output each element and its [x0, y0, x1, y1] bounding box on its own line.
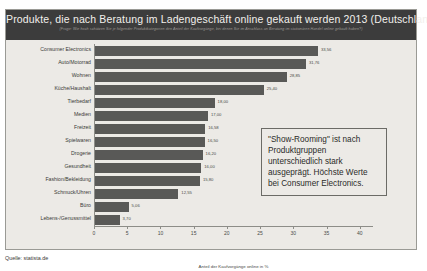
chart-title: Produkte, die nach Beratung im Ladengesc… — [6, 13, 416, 25]
bar — [95, 202, 129, 212]
bar-value-label: 16,20 — [206, 151, 216, 156]
x-tick-label: 10 — [158, 230, 164, 236]
chart-screenshot: Produkte, die nach Beratung im Ladengesc… — [0, 0, 427, 271]
category-label: Drogerie — [71, 150, 91, 156]
x-tick-label: 15 — [191, 230, 197, 236]
bar — [95, 124, 205, 134]
category-label: Küche/Haushalt — [54, 85, 91, 91]
bar-row: Auto/Motorrad31,76 — [94, 57, 404, 70]
bar-value-label: 31,76 — [309, 60, 319, 65]
x-axis-title: Anteil der Kaufvorgänge online in % — [94, 264, 373, 269]
bar-row: Tierbedarf18,00 — [94, 96, 404, 109]
bar-value-label: 15,80 — [203, 177, 213, 182]
annotation-callout: "Show-Rooming" ist nach Produktgruppen u… — [261, 128, 387, 196]
plot-area: Consumer Electronics33,56Auto/Motorrad31… — [6, 40, 416, 251]
x-tick — [127, 226, 128, 229]
x-tick — [260, 226, 261, 229]
x-tick-label: 5 — [126, 230, 129, 236]
bar — [95, 150, 203, 160]
source-label: Quelle: statista.de — [5, 255, 48, 261]
x-tick — [94, 226, 95, 229]
bar — [95, 72, 287, 82]
x-tick — [160, 226, 161, 229]
category-label: Medien — [74, 111, 91, 117]
bar-value-label: 16,58 — [208, 125, 218, 130]
bar-row: Wohnen28,85 — [94, 70, 404, 83]
category-label: Spielwaren — [65, 137, 91, 143]
bar-value-label: 25,40 — [267, 86, 277, 91]
bar-value-label: 5,06 — [132, 203, 140, 208]
bar-value-label: 17,00 — [211, 112, 221, 117]
bar — [95, 59, 306, 69]
category-label: Lebens-/Genussmittel — [41, 215, 91, 221]
category-label: Fashion/Bekleidung — [45, 176, 91, 182]
x-tick — [227, 226, 228, 229]
bar — [95, 46, 318, 56]
bar-value-label: 28,85 — [290, 73, 300, 78]
category-label: Schmuck/Uhren — [54, 189, 91, 195]
bar — [95, 98, 215, 108]
category-label: Auto/Motorrad — [58, 59, 91, 65]
x-axis-line — [94, 226, 373, 227]
bar-value-label: 16,00 — [204, 164, 214, 169]
chart-subtitle: (Frage: Wie hoch schätzen Sie je folgend… — [6, 27, 416, 31]
category-label: Wohnen — [72, 72, 91, 78]
bar-value-label: 12,55 — [181, 190, 191, 195]
x-tick — [360, 226, 361, 229]
bar-value-label: 18,00 — [218, 99, 228, 104]
bar — [95, 85, 264, 95]
category-label: Büro — [80, 202, 91, 208]
bar-value-label: 16,50 — [208, 138, 218, 143]
x-tick — [293, 226, 294, 229]
x-tick-label: 30 — [291, 230, 297, 236]
x-tick-label: 20 — [224, 230, 230, 236]
bar-value-label: 3,70 — [123, 216, 131, 221]
bar-value-label: 33,56 — [321, 47, 331, 52]
category-label: Consumer Electronics — [40, 46, 91, 52]
x-tick — [194, 226, 195, 229]
x-tick-label: 25 — [257, 230, 263, 236]
bar — [95, 137, 205, 147]
bar-row: Medien17,00 — [94, 109, 404, 122]
bar-row: Lebens-/Genussmittel3,70 — [94, 213, 404, 226]
chart-header: Produkte, die nach Beratung im Ladengesc… — [6, 10, 416, 40]
category-label: Gesundheit — [64, 163, 91, 169]
bar — [95, 111, 208, 121]
bar — [95, 215, 120, 225]
bar-row: Küche/Haushalt25,40 — [94, 83, 404, 96]
x-tick-label: 0 — [93, 230, 96, 236]
category-label: Freizeit — [74, 124, 91, 130]
bar — [95, 176, 200, 186]
chart-card: Produkte, die nach Beratung im Ladengesc… — [5, 9, 417, 250]
bar — [95, 163, 201, 173]
bar — [95, 189, 178, 199]
x-tick-label: 40 — [357, 230, 363, 236]
x-tick — [327, 226, 328, 229]
category-label: Tierbedarf — [68, 98, 91, 104]
x-tick-label: 35 — [324, 230, 330, 236]
bar-row: Consumer Electronics33,56 — [94, 44, 404, 57]
bar-row: Büro5,06 — [94, 200, 404, 213]
